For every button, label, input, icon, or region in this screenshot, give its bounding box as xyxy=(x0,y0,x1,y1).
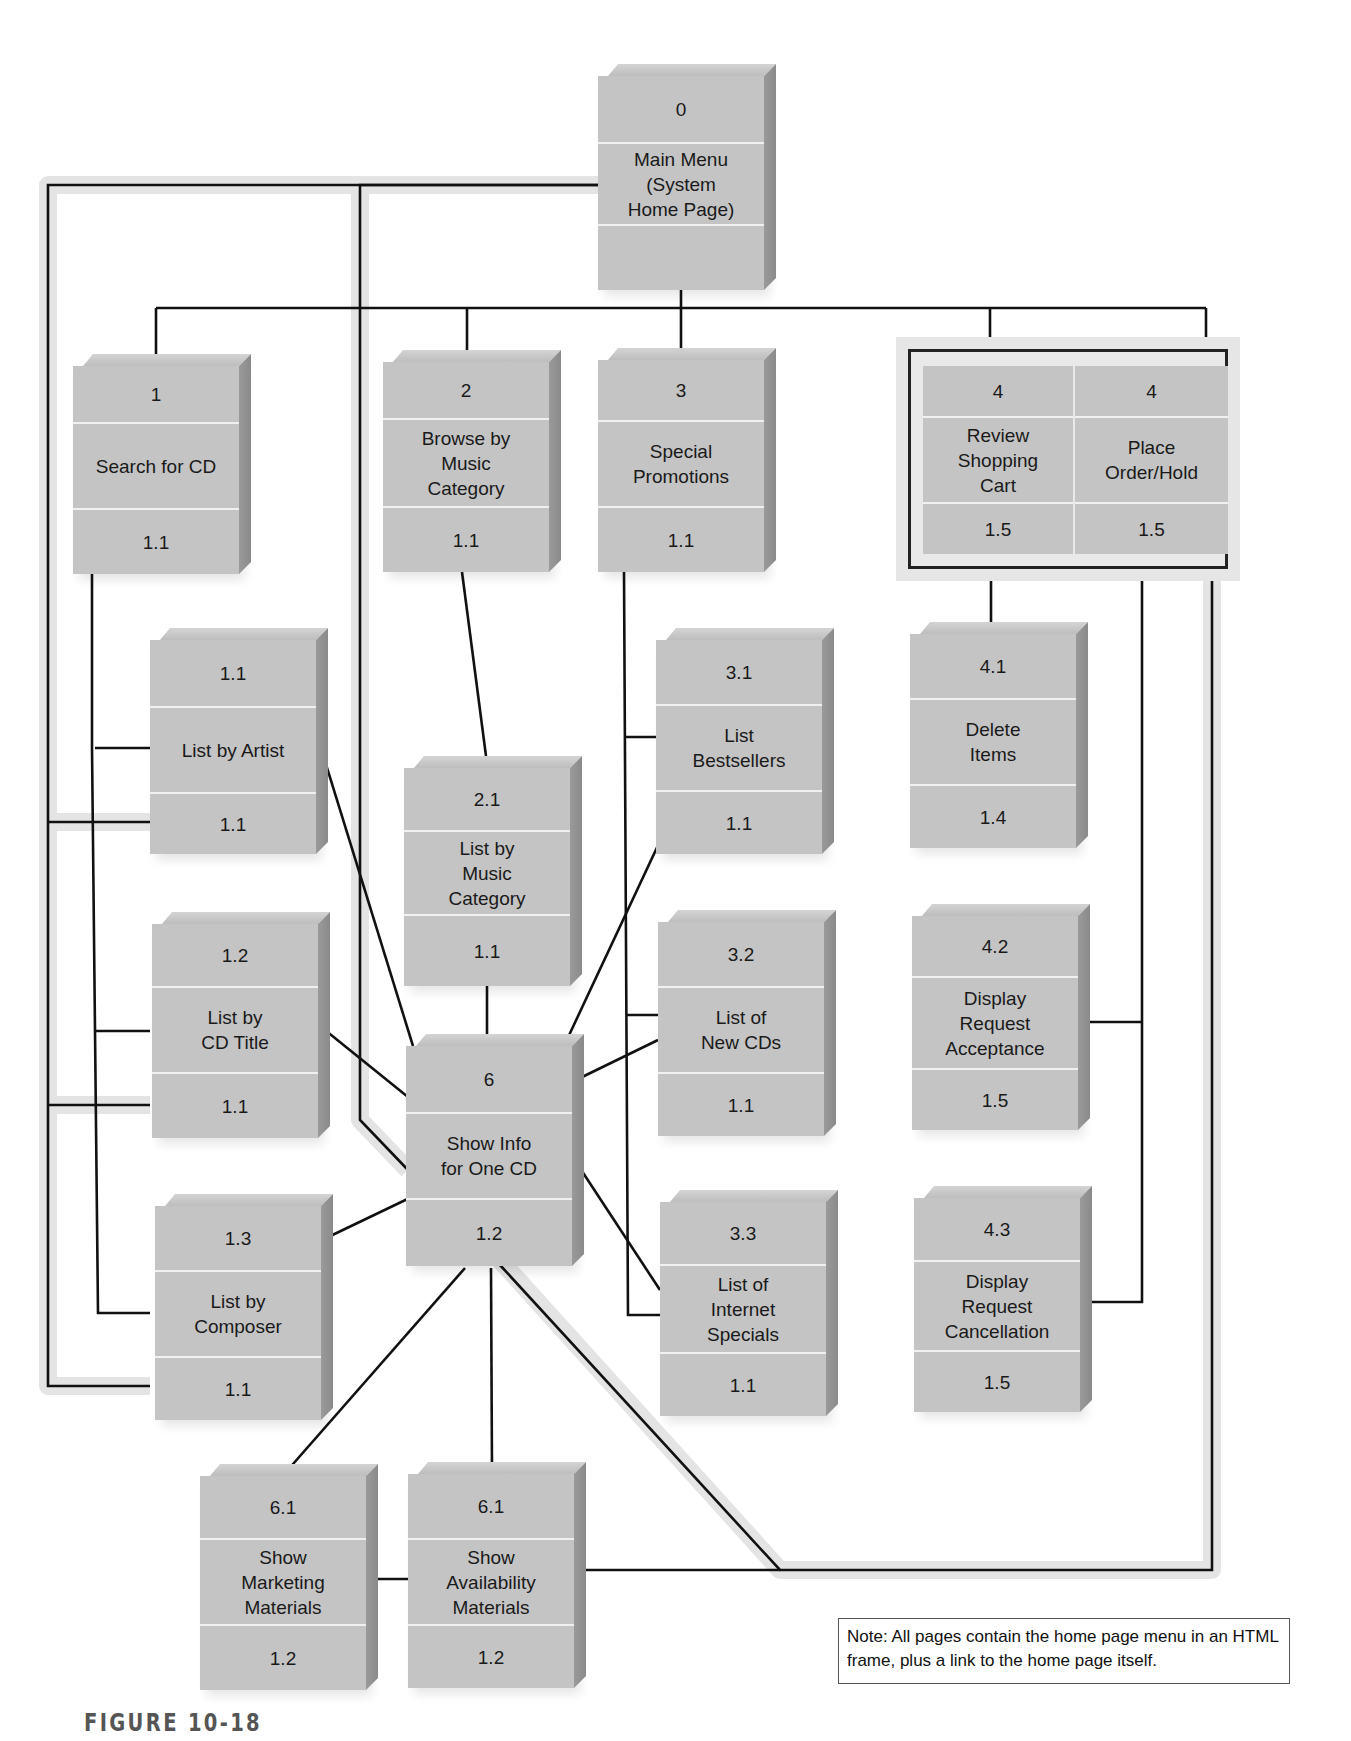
page-list-of-internet-specials[interactable]: 3.3 List of Internet Specials 1.1 xyxy=(660,1202,826,1416)
diagram-note: Note: All pages contain the home page me… xyxy=(838,1618,1290,1684)
page-ref: 1.1 xyxy=(660,1354,826,1416)
page-number: 3 xyxy=(598,360,764,420)
page-search-for-cd[interactable]: 1 Search for CD 1.1 xyxy=(73,366,239,574)
page-title: List by Composer xyxy=(155,1272,321,1356)
page-list-by-composer[interactable]: 1.3 List by Composer 1.1 xyxy=(155,1206,321,1420)
page-number: 1.2 xyxy=(152,924,318,986)
page-number: 4.3 xyxy=(914,1198,1080,1260)
page-list-by-cd-title[interactable]: 1.2 List by CD Title 1.1 xyxy=(152,924,318,1138)
page-number: 4.1 xyxy=(910,634,1076,698)
page-ref: 1.1 xyxy=(155,1358,321,1420)
page-number: 1.3 xyxy=(155,1206,321,1270)
page-ref: 1.4 xyxy=(910,786,1076,848)
page-number: 6 xyxy=(406,1046,572,1112)
page-title: Show Marketing Materials xyxy=(200,1540,366,1624)
page-title: Display Request Cancellation xyxy=(914,1262,1080,1350)
page-ref: 1.5 xyxy=(914,1352,1080,1412)
page-title: Show Info for One CD xyxy=(406,1114,572,1198)
page-show-info-for-one-cd[interactable]: 6 Show Info for One CD 1.2 xyxy=(406,1046,572,1266)
site-navigation-diagram: 0 Main Menu (System Home Page) 1 Search … xyxy=(0,0,1351,1741)
page-number: 4 xyxy=(923,366,1073,416)
page-ref: 1.1 xyxy=(383,508,549,572)
page-number: 3.3 xyxy=(660,1202,826,1264)
page-number: 6.1 xyxy=(408,1474,574,1538)
page-title: Display Request Acceptance xyxy=(912,978,1078,1068)
page-ref: 1.5 xyxy=(912,1070,1078,1130)
page-number: 0 xyxy=(598,76,764,142)
page-ref: 1.1 xyxy=(658,1074,824,1136)
page-title: Special Promotions xyxy=(598,422,764,506)
page-title: Place Order/Hold xyxy=(1075,418,1228,502)
page-ref: 1.2 xyxy=(408,1626,574,1688)
page-title: List by CD Title xyxy=(152,988,318,1072)
page-ref: 1.2 xyxy=(200,1626,366,1690)
page-list-bestsellers[interactable]: 3.1 List Bestsellers 1.1 xyxy=(656,640,822,854)
page-title: Delete Items xyxy=(910,700,1076,784)
page-list-by-artist[interactable]: 1.1 List by Artist 1.1 xyxy=(150,640,316,854)
page-title: Browse by Music Category xyxy=(383,420,549,506)
page-number: 4.2 xyxy=(912,916,1078,976)
page-list-of-new-cds[interactable]: 3.2 List of New CDs 1.1 xyxy=(658,922,824,1136)
page-place-order-hold[interactable]: 4 Place Order/Hold 1.5 xyxy=(1075,366,1228,554)
page-ref: 1.1 xyxy=(656,792,822,854)
page-ref: 1.1 xyxy=(152,1074,318,1138)
page-number: 1.1 xyxy=(150,640,316,706)
page-number: 2 xyxy=(383,362,549,418)
page-delete-items[interactable]: 4.1 Delete Items 1.4 xyxy=(910,634,1076,848)
page-number: 2.1 xyxy=(404,768,570,830)
page-number: 3.2 xyxy=(658,922,824,986)
page-title: List of New CDs xyxy=(658,988,824,1072)
page-display-request-cancellation[interactable]: 4.3 Display Request Cancellation 1.5 xyxy=(914,1198,1080,1412)
page-title: List Bestsellers xyxy=(656,706,822,790)
page-ref: 1.5 xyxy=(1075,504,1228,554)
page-special-promotions[interactable]: 3 Special Promotions 1.1 xyxy=(598,360,764,572)
page-review-shopping-cart[interactable]: 4 Review Shopping Cart 1.5 xyxy=(923,366,1073,554)
page-list-by-music-category[interactable]: 2.1 List by Music Category 1.1 xyxy=(404,768,570,986)
page-title: List of Internet Specials xyxy=(660,1266,826,1352)
figure-label: FIGURE 10-18 xyxy=(84,1708,262,1737)
page-number: 4 xyxy=(1075,366,1228,416)
page-title: Show Availability Materials xyxy=(408,1540,574,1624)
page-title: List by Music Category xyxy=(404,832,570,914)
page-title: Search for CD xyxy=(73,424,239,508)
page-show-availability-materials[interactable]: 6.1 Show Availability Materials 1.2 xyxy=(408,1474,574,1688)
page-ref: 1.1 xyxy=(598,508,764,572)
page-number: 3.1 xyxy=(656,640,822,704)
page-ref: 1.2 xyxy=(406,1200,572,1266)
page-ref: 1.1 xyxy=(404,916,570,986)
page-title: Review Shopping Cart xyxy=(923,418,1073,502)
page-show-marketing-materials[interactable]: 6.1 Show Marketing Materials 1.2 xyxy=(200,1476,366,1690)
page-display-request-acceptance[interactable]: 4.2 Display Request Acceptance 1.5 xyxy=(912,916,1078,1130)
page-number: 1 xyxy=(73,366,239,422)
page-ref: 1.1 xyxy=(73,510,239,574)
page-browse-by-music-category[interactable]: 2 Browse by Music Category 1.1 xyxy=(383,362,549,572)
page-title: List by Artist xyxy=(150,708,316,792)
page-ref xyxy=(598,226,764,290)
page-ref: 1.1 xyxy=(150,794,316,854)
page-number: 6.1 xyxy=(200,1476,366,1538)
page-main-menu[interactable]: 0 Main Menu (System Home Page) xyxy=(598,76,764,290)
page-title: Main Menu (System Home Page) xyxy=(598,144,764,224)
page-ref: 1.5 xyxy=(923,504,1073,554)
